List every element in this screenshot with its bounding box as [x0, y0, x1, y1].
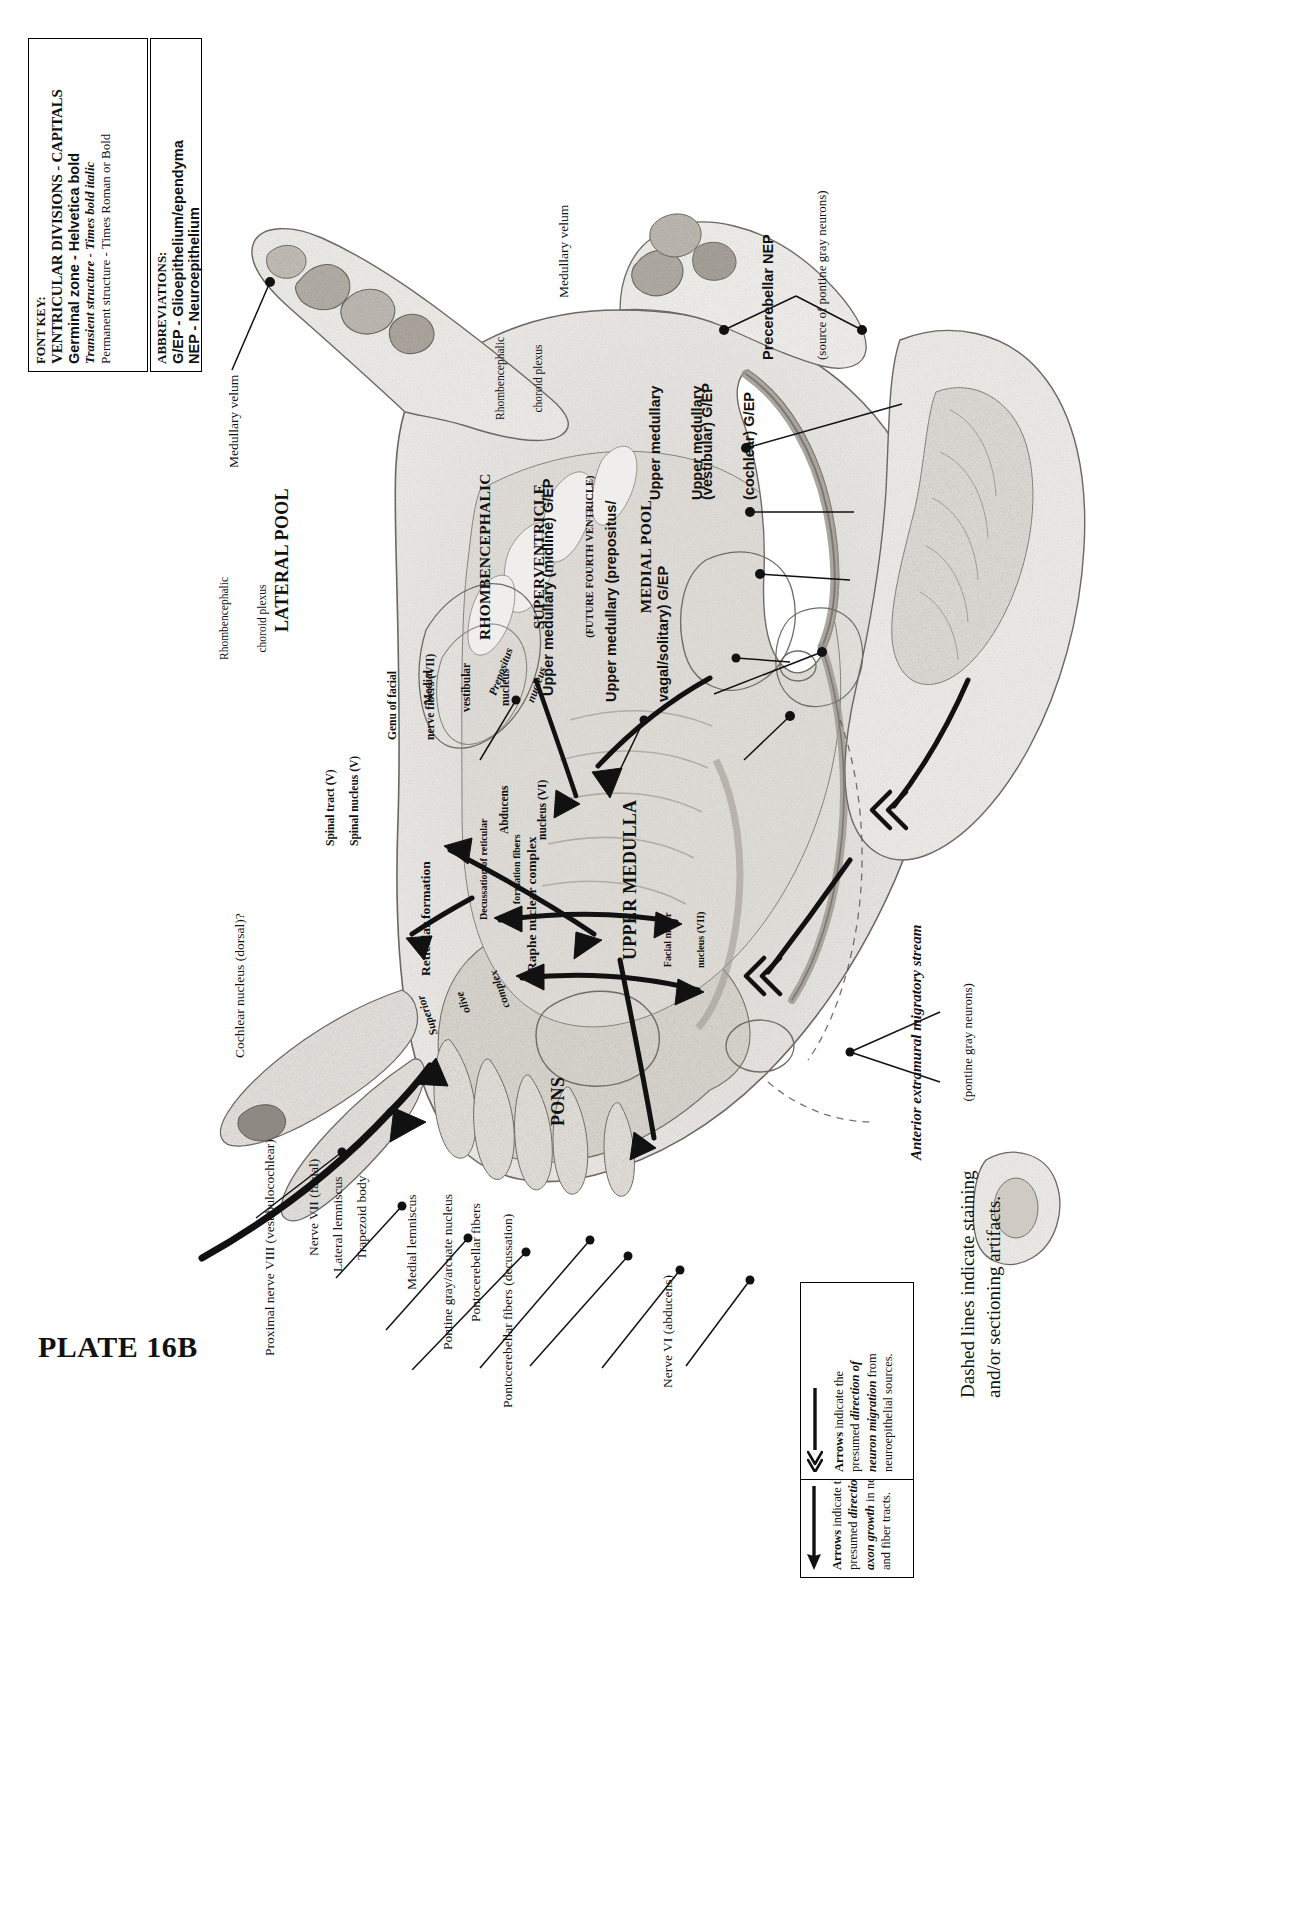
- label-rhombencephalic-choroid-plexus-right-line2: choroid plexus: [532, 337, 545, 420]
- label-medullary-velum-right: Medullary velum: [556, 205, 572, 298]
- neuron-migration-arrow-icon: [807, 1290, 828, 1472]
- label-upper-medullary-prepositus-gep-line1: Upper medullary (prepositus/: [603, 501, 620, 702]
- label-facial-motor-nucleus-line2: nucleus (VII): [695, 912, 706, 968]
- label-precerebellar-nep-sub: (source of pontine gray neurons): [814, 190, 829, 360]
- abbreviation-nep: NEP - Neuroepithelium: [186, 46, 202, 364]
- page-title: PLATE 16B: [38, 1330, 198, 1364]
- label-anterior-extramural-migratory-stream-sub: (pontine gray neurons): [961, 925, 976, 1160]
- label-pontocerebellar-fibers: Pontocerebellar fibers: [468, 1203, 484, 1322]
- legend-neuron-migration-box: Arrows indicate the presumed direction o…: [800, 1282, 914, 1480]
- font-key-heading: FONT KEY:: [34, 46, 49, 364]
- legend-dashed-lines-note: Dashed lines indicate staining and/or se…: [955, 1398, 1182, 1449]
- division-upper-medulla: UPPER MEDULLA: [620, 800, 641, 960]
- division-pons: PONS: [548, 1077, 569, 1126]
- label-upper-medullary-cochlear-gep-line2: (cochlear) G/EP: [741, 386, 758, 500]
- dashed-note-line2: and/or sectioning artifacts.: [981, 1171, 1007, 1398]
- font-key-line-3: Transient structure - Times bold italic: [82, 46, 98, 364]
- label-superior-olive-line1: Superior: [414, 994, 440, 1037]
- label-pontine-gray-arcuate-nucleus: Pontine gray/arcuate nucleus: [440, 1194, 456, 1350]
- label-upper-medullary-prepositus-gep-line2: vagal/solitary) G/EP: [655, 501, 672, 702]
- label-rhombencephalic-choroid-plexus-right-line1: Rhombencephalic: [494, 337, 507, 420]
- label-upper-medullary-cochlear-gep-line1: Upper medullary: [689, 386, 706, 500]
- division-lateral-pool: LATERAL POOL: [272, 488, 293, 632]
- label-superior-olive-line2: olive: [450, 981, 476, 1024]
- label-decussation-reticular-line1: Decussation of reticular: [478, 819, 489, 920]
- label-decussation-reticular-line2: formation fibers: [511, 819, 522, 920]
- font-key-line-4: Permanent structure - Times Roman or Bol…: [98, 46, 114, 364]
- label-reticular-formation: Reticular formation: [418, 861, 434, 976]
- label-anterior-extramural-migratory-stream: Anterior extramural migratory stream: [908, 925, 925, 1160]
- font-key-line-1: VENTRICULAR DIVISIONS - CAPITALS: [49, 46, 66, 364]
- label-prepositus-nucleus-line1: Prepositus: [486, 646, 515, 697]
- label-precerebellar-nep: Precerebellar NEP: [760, 190, 777, 360]
- division-rhombencephalic-superventricle-line1: RHOMBENCEPHALIC: [476, 473, 494, 640]
- label-medial-vestibular-line1: Medial: [422, 663, 435, 712]
- label-cochlear-nucleus-dorsal: Cochlear nucleus (dorsal)?: [232, 913, 248, 1058]
- label-proximal-nerve-viii: Proximal nerve VIII (vestibulocochlear): [262, 1139, 278, 1356]
- font-key-line-2: Germinal zone - Helvetica bold: [66, 46, 82, 364]
- label-raphe-nuclear-complex: Raphe nuclear complex: [524, 837, 540, 973]
- label-medial-lemniscus: Medial lemniscus: [404, 1194, 420, 1290]
- label-spinal-tract-v: Spinal tract (V): [324, 769, 337, 846]
- label-lateral-lemniscus: Lateral lemniscus: [330, 1176, 346, 1272]
- dashed-note-line1: Dashed lines indicate staining: [955, 1171, 981, 1398]
- label-spinal-nucleus-v: Spinal nucleus (V): [348, 756, 361, 846]
- label-trapezoid-body: Trapezoid body: [354, 1175, 370, 1260]
- label-rhombencephalic-choroid-plexus-left-line1: Rhombencephalic: [218, 577, 231, 660]
- font-key-box: FONT KEY: VENTRICULAR DIVISIONS - CAPITA…: [28, 38, 148, 372]
- abbreviations-heading: ABBREVIATIONS:: [154, 46, 170, 364]
- label-nerve-vi-abducens: Nerve VI (abducens): [660, 1275, 676, 1388]
- abbreviation-gep: G/EP - Glioepithelium/ependyma: [170, 46, 186, 364]
- label-prepositus-nucleus-line2: nucleus: [522, 659, 551, 710]
- abbreviations-box: ABBREVIATIONS: G/EP - Glioepithelium/epe…: [150, 38, 202, 372]
- label-superior-olive-line3: complex: [487, 967, 513, 1010]
- label-pontocerebellar-fibers-decussation: Pontocerebellar fibers (decussation): [500, 1214, 516, 1408]
- label-rhombencephalic-choroid-plexus-left-line2: choroid plexus: [256, 577, 269, 660]
- label-medullary-velum-left: Medullary velum: [226, 375, 242, 468]
- label-abducens-nucleus-line2: nucleus (VI): [536, 780, 549, 840]
- label-nerve-vii-facial: Nerve VII (facial): [306, 1159, 322, 1256]
- label-facial-motor-nucleus-line1: Facial motor: [662, 912, 673, 968]
- neuron-migration-note-text: Arrows indicate the presumed direction o…: [831, 1290, 897, 1472]
